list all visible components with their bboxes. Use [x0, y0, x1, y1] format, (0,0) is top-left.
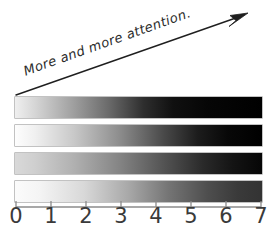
axis-tick-label: 6: [219, 206, 232, 227]
gradient-bar: [15, 97, 262, 118]
axis-tick-label-group: 0 1 2 3 4 5 6 7: [0, 206, 271, 235]
axis-tick-label: 7: [254, 206, 267, 227]
figure-canvas: More and more attention. 0 1 2 3 4 5 6 7: [0, 0, 271, 235]
axis-tick-label: 2: [79, 206, 92, 227]
axis-tick-label: 1: [44, 206, 57, 227]
axis-tick-label: 5: [184, 206, 197, 227]
chart-annotation-caption: More and more attention.: [21, 5, 192, 78]
gradient-bar-group: [15, 97, 262, 202]
gradient-bar: [15, 153, 262, 174]
axis-tick-label: 3: [114, 206, 127, 227]
axis-tick-label: 4: [149, 206, 162, 227]
gradient-bar: [15, 125, 262, 146]
axis-tick-label: 0: [9, 206, 22, 227]
